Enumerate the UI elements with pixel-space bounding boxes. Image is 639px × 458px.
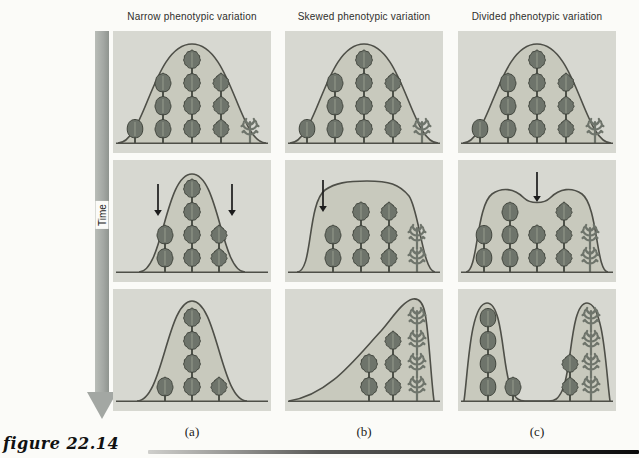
- panel-letter-label-b: (b): [285, 424, 443, 440]
- selection-panel-c-row2: [458, 160, 616, 282]
- selection-panel-c-row3: [458, 289, 616, 411]
- time-axis-label: Time: [96, 201, 109, 229]
- selection-panel-a-row2: [113, 160, 271, 282]
- selection-panel-b-row3: [285, 289, 443, 411]
- panel-letter-label-a: (a): [113, 424, 271, 440]
- column-header-b: Skewed phenotypic variation: [285, 11, 443, 22]
- column-header-a: Narrow phenotypic variation: [113, 11, 271, 22]
- selection-panel-b-row1: [285, 31, 443, 153]
- selection-panel-c-row1: [458, 31, 616, 153]
- column-header-c: Divided phenotypic variation: [458, 11, 616, 22]
- panel-letter-label-c: (c): [458, 424, 616, 440]
- figure-number: figure 22.14: [3, 434, 119, 453]
- selection-panel-a-row1: [113, 31, 271, 153]
- selection-panel-b-row2: [285, 160, 443, 282]
- figure-page: Time Narrow phenotypic variation(a)Skewe…: [0, 0, 639, 458]
- selection-panel-a-row3: [113, 289, 271, 411]
- page-divider-line: [148, 450, 639, 454]
